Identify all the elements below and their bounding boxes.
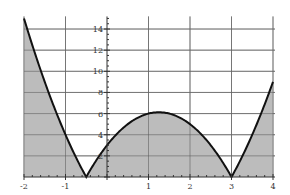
- x-tick-label: -1: [62, 182, 70, 191]
- y-tick-label: 8: [98, 88, 103, 97]
- y-tick-label: 2: [98, 152, 103, 161]
- x-tick-label: -2: [20, 182, 28, 191]
- y-tick-label: 12: [93, 46, 103, 55]
- x-tick-label: 2: [187, 182, 192, 191]
- chart: -2-112342468101214: [0, 0, 290, 195]
- x-tick-label: 1: [146, 182, 151, 191]
- y-tick-label: 6: [98, 110, 103, 119]
- y-tick-label: 10: [93, 67, 103, 76]
- x-tick-label: 4: [270, 182, 275, 191]
- x-tick-label: 3: [229, 182, 234, 191]
- y-tick-label: 14: [93, 25, 103, 34]
- y-tick-label: 4: [98, 131, 103, 140]
